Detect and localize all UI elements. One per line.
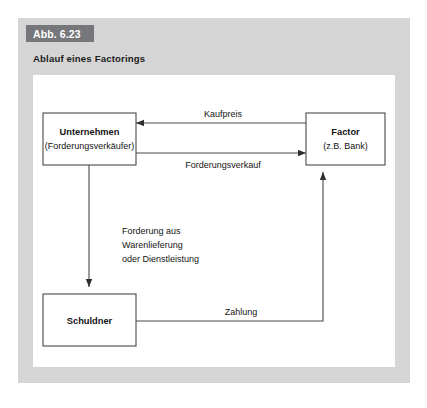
node-unternehmen: Unternehmen (Forderungsverkäufer) (43, 113, 136, 165)
node-factor: Factor (z.B. Bank) (306, 113, 385, 165)
node-factor-title: Factor (331, 127, 360, 137)
figure-panel: Abb. 6.23 Ablauf eines Factorings Kaufpr… (18, 18, 410, 383)
edge-label-kaufpreis: Kaufpreis (204, 109, 243, 119)
node-schuldner: Schuldner (43, 294, 136, 346)
factoring-flow-diagram: Kaufpreis Forderungsverkauf Forderung au… (33, 75, 395, 367)
edge-label-forderung-line1: Forderung aus (122, 226, 181, 236)
node-factor-subtitle: (z.B. Bank) (323, 141, 368, 151)
edge-forderungsverkauf: Forderungsverkauf (136, 153, 306, 170)
node-unternehmen-title: Unternehmen (60, 127, 120, 137)
node-unternehmen-box (43, 113, 136, 165)
node-unternehmen-subtitle: (Forderungsverkäufer) (45, 141, 135, 151)
node-schuldner-title: Schuldner (67, 316, 113, 326)
edge-label-zahlung: Zahlung (225, 307, 258, 317)
edge-forderung: Forderung aus Warenlieferung oder Dienst… (89, 165, 199, 287)
figure-number-badge: Abb. 6.23 (26, 25, 94, 42)
edge-label-forderung-line3: oder Dienstleistung (122, 254, 199, 264)
edge-label-forderungsverkauf: Forderungsverkauf (185, 160, 261, 170)
diagram-canvas: Kaufpreis Forderungsverkauf Forderung au… (33, 75, 395, 367)
node-factor-box (306, 113, 385, 165)
figure-title: Ablauf eines Factorings (33, 53, 145, 64)
edge-kaufpreis: Kaufpreis (136, 109, 306, 123)
edge-label-forderung-line2: Warenlieferung (122, 240, 183, 250)
